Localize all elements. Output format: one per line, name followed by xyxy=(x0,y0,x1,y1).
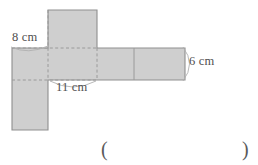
left-upper-face xyxy=(12,48,48,80)
top-face xyxy=(48,10,97,48)
answer-paren-close: ) xyxy=(242,139,249,159)
right-outer-face xyxy=(134,48,185,80)
net-diagram-svg xyxy=(0,0,258,165)
right-inner-face xyxy=(97,48,134,80)
geometry-net-figure: 8 cm 11 cm 6 cm ( ) xyxy=(0,0,258,165)
dimension-label-8cm: 8 cm xyxy=(12,31,37,44)
dimension-label-6cm: 6 cm xyxy=(189,55,214,68)
left-lower-face xyxy=(12,80,48,130)
center-face xyxy=(48,48,97,80)
answer-paren-open: ( xyxy=(101,139,108,159)
dimension-label-11cm: 11 cm xyxy=(56,81,87,94)
net-face-fills xyxy=(12,10,185,130)
